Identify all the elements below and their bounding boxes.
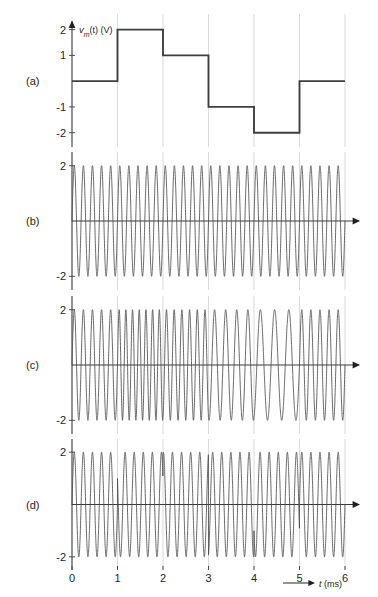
y-tick-label--2: -2 [56,127,66,139]
y-tick-label-1: 1 [60,49,66,61]
x-tick-label-4: 4 [251,572,257,584]
x-tick-label-6: 6 [342,572,348,584]
y-tick-label-2: 2 [60,160,66,172]
y-tick-label-2: 2 [60,24,66,36]
x-tick-label-2: 2 [160,572,166,584]
y-tick-label--2: -2 [56,414,66,426]
panel-label-d: (d) [26,499,39,511]
modulation-waveforms-figure: 21-1-2(a)2-2(b)2-2(c)2-2(d)vm(t) (V)0123… [0,0,378,597]
y-tick-label--2: -2 [56,270,66,282]
panel-label-c: (c) [26,359,39,371]
x-tick-label-5: 5 [296,572,302,584]
y-tick-label-2: 2 [60,446,66,458]
x-tick-label-0: 0 [69,572,75,584]
y-tick-label--1: -1 [56,101,66,113]
x-tick-label-1: 1 [114,572,120,584]
x-axis-caption-text: t (ms) [319,579,342,589]
panel-label-b: (b) [26,215,39,227]
panel-label-a: (a) [26,75,39,87]
x-tick-label-3: 3 [205,572,211,584]
figure-background [0,0,378,597]
y-tick-label-2: 2 [60,304,66,316]
y-tick-label--2: -2 [56,551,66,563]
